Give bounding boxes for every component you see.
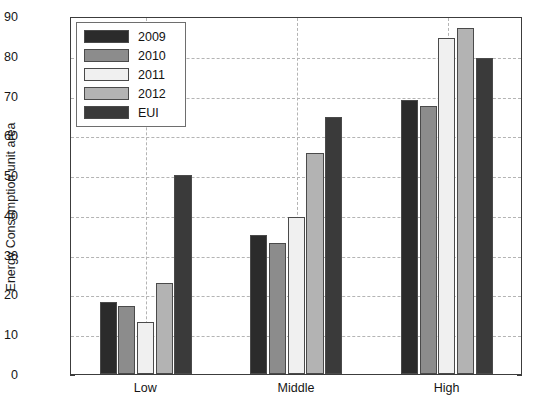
legend-label-2012: 2012: [138, 87, 166, 101]
bar-middle-2010: [269, 243, 286, 374]
bar-chart-figure: Energy Consumption unit area 01020304050…: [0, 0, 545, 416]
legend-label-2009: 2009: [138, 30, 166, 44]
legend-label-2010: 2010: [138, 49, 166, 63]
y-tick-mark-right-0: [517, 375, 522, 376]
y-tick-label-40: 40: [0, 208, 18, 224]
y-tick-label-90: 90: [0, 9, 18, 25]
legend-swatch-2012: [84, 87, 129, 100]
bar-low-eui: [174, 175, 191, 374]
bar-middle-2012: [306, 153, 323, 374]
x-category-label-low: Low: [85, 381, 205, 395]
y-tick-label-80: 80: [0, 49, 18, 65]
y-tick-label-0: 0: [0, 367, 18, 383]
bar-low-2009: [100, 302, 117, 374]
legend-label-eui: EUI: [138, 106, 159, 120]
legend-swatch-2009: [84, 30, 129, 43]
y-tick-label-70: 70: [0, 89, 18, 105]
bar-low-2010: [118, 306, 135, 374]
legend-swatch-2010: [84, 49, 129, 62]
legend-label-2011: 2011: [138, 68, 165, 82]
legend-item-2009: 2009: [84, 28, 179, 45]
bar-high-2011: [438, 38, 455, 374]
bar-middle-2009: [250, 235, 267, 374]
bar-low-2011: [137, 322, 154, 374]
legend-swatch-2011: [84, 68, 129, 81]
bar-high-2010: [420, 106, 437, 375]
legend-item-2011: 2011: [84, 66, 179, 83]
bar-middle-2011: [288, 217, 305, 374]
bar-high-2009: [401, 100, 418, 374]
legend-item-2012: 2012: [84, 85, 179, 102]
legend-item-2010: 2010: [84, 47, 179, 64]
y-tick-label-20: 20: [0, 287, 18, 303]
legend-item-eui: EUI: [84, 104, 179, 121]
y-tick-mark-0: [70, 375, 75, 376]
x-category-label-high: High: [387, 381, 507, 395]
y-tick-label-50: 50: [0, 168, 18, 184]
x-category-label-middle: Middle: [236, 381, 356, 395]
y-tick-label-10: 10: [0, 327, 18, 343]
bar-low-2012: [156, 283, 173, 374]
bar-middle-eui: [325, 117, 342, 374]
bar-high-2012: [457, 28, 474, 374]
y-tick-label-30: 30: [0, 248, 18, 264]
y-tick-label-60: 60: [0, 128, 18, 144]
legend-swatch-eui: [84, 106, 129, 119]
bar-high-eui: [476, 58, 493, 374]
chart-legend: 2009201020112012EUI: [76, 22, 186, 127]
